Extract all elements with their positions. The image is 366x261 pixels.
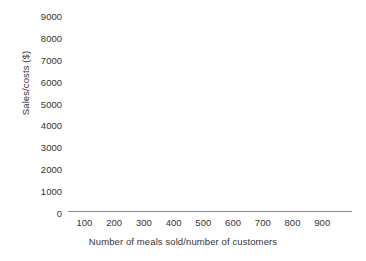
x-axis-title: Number of meals sold/number of customers: [0, 236, 366, 247]
chart-figure: Sales/costs ($) 010002000300040005000600…: [0, 0, 366, 261]
x-axis-line: [68, 211, 352, 212]
y-axis-tick-label: 2000: [26, 164, 62, 175]
y-axis-tick-label: 4000: [26, 120, 62, 131]
y-axis-tick-label: 9000: [26, 11, 62, 22]
y-axis-tick-label: 0: [26, 208, 62, 219]
y-axis-tick-label: 5000: [26, 99, 62, 110]
y-axis-tick-label-group: 0100020003000400050006000700080009000: [26, 11, 62, 219]
y-axis-tick-label: 7000: [26, 55, 62, 66]
y-axis-tick-label: 8000: [26, 33, 62, 44]
y-axis-tick-label: 3000: [26, 142, 62, 153]
y-axis-tick-label: 6000: [26, 77, 62, 88]
plot-area: [68, 14, 352, 212]
x-axis-tick-label-group: 100200300400500600700800900: [68, 217, 352, 230]
x-axis-tick-label: 900: [302, 217, 342, 229]
y-axis-tick-label: 1000: [26, 186, 62, 197]
